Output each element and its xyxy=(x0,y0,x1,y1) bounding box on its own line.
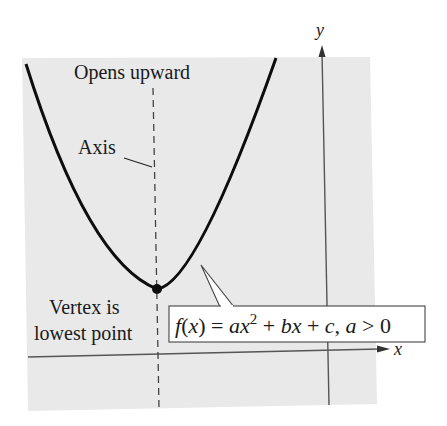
parabola-diagram: y x Opens upward Axis Vertex is lowest p… xyxy=(0,0,447,426)
axis-label: Axis xyxy=(78,136,116,158)
x-axis-arrow-icon xyxy=(377,346,390,353)
equation-text: f(x) = ax2 + bx + c, a > 0 xyxy=(175,311,391,338)
vertex-point xyxy=(152,284,162,294)
y-axis-arrow-icon xyxy=(319,45,326,57)
vertex-label-line2: lowest point xyxy=(34,322,133,345)
vertex-label-line1: Vertex is xyxy=(49,296,120,318)
y-axis-label: y xyxy=(314,20,324,40)
opens-upward-label: Opens upward xyxy=(74,61,190,84)
